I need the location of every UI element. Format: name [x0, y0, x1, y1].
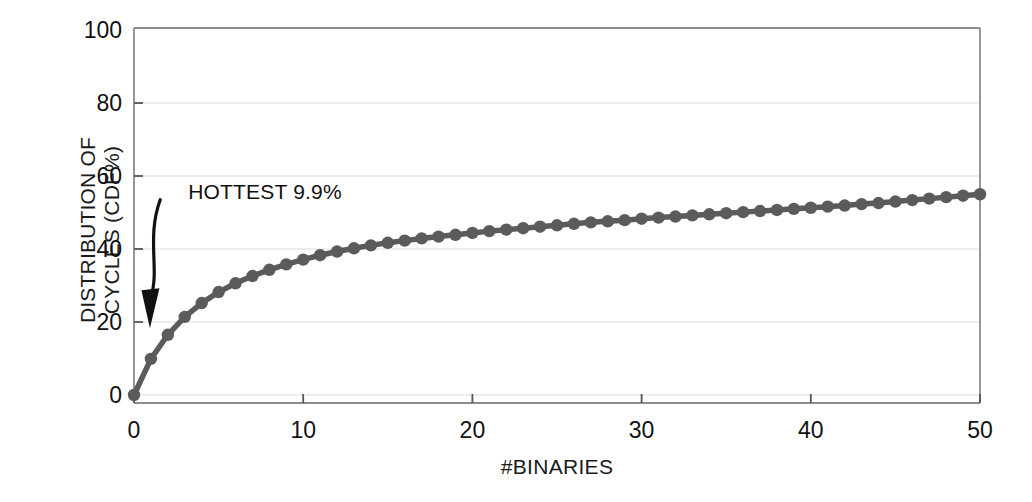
- y-tick-label-20: 20: [96, 309, 122, 336]
- data-point: [466, 227, 478, 239]
- data-point: [551, 219, 563, 231]
- y-tick-label-80: 80: [96, 90, 122, 117]
- data-point: [805, 202, 817, 214]
- x-tick-label-50: 50: [967, 417, 993, 444]
- data-point: [906, 194, 918, 206]
- data-point: [720, 207, 732, 219]
- data-point: [838, 199, 850, 211]
- data-point: [229, 277, 241, 289]
- data-point: [703, 208, 715, 220]
- annotation-arrow-curve: [151, 200, 160, 297]
- data-point: [534, 221, 546, 233]
- data-point: [128, 389, 140, 401]
- x-tick-label-0: 0: [128, 417, 141, 444]
- data-point: [974, 188, 986, 200]
- y-tick-label-40: 40: [96, 236, 122, 263]
- data-point: [297, 253, 309, 265]
- data-point: [957, 190, 969, 202]
- data-point: [449, 229, 461, 241]
- data-point: [754, 205, 766, 217]
- chart-figure: DISTRIBUTION OF CYCLES (CDF%) 0204060801…: [0, 0, 1032, 502]
- data-point: [788, 203, 800, 215]
- y-tick-label-0: 0: [109, 382, 122, 409]
- data-point: [246, 270, 258, 282]
- data-point: [500, 223, 512, 235]
- x-tick-label-20: 20: [460, 417, 486, 444]
- data-point: [872, 197, 884, 209]
- data-point: [618, 214, 630, 226]
- y-tick-label-60: 60: [96, 163, 122, 190]
- data-point: [432, 230, 444, 242]
- data-point: [331, 245, 343, 257]
- data-point: [602, 215, 614, 227]
- data-point: [179, 311, 191, 323]
- data-point: [162, 329, 174, 341]
- chart-annotation-label: HOTTEST 9.9%: [188, 180, 342, 204]
- data-point: [889, 195, 901, 207]
- data-point: [399, 234, 411, 246]
- data-point: [382, 237, 394, 249]
- data-point: [771, 204, 783, 216]
- data-point: [940, 191, 952, 203]
- data-point: [263, 264, 275, 276]
- data-point: [652, 211, 664, 223]
- data-point: [822, 200, 834, 212]
- data-point: [314, 249, 326, 261]
- data-point: [517, 222, 529, 234]
- data-point: [855, 198, 867, 210]
- x-tick-label-30: 30: [629, 417, 655, 444]
- data-point: [415, 232, 427, 244]
- data-point: [635, 213, 647, 225]
- data-point: [923, 192, 935, 204]
- data-point: [280, 258, 292, 270]
- data-point: [669, 210, 681, 222]
- x-axis-label: #BINARIES: [501, 455, 613, 479]
- data-point: [212, 286, 224, 298]
- data-point: [568, 218, 580, 230]
- chart-plot-area: [0, 0, 1032, 502]
- data-point: [483, 225, 495, 237]
- data-point: [737, 206, 749, 218]
- data-point: [585, 216, 597, 228]
- data-point: [686, 209, 698, 221]
- y-tick-label-100: 100: [84, 17, 122, 44]
- x-tick-label-10: 10: [290, 417, 316, 444]
- data-point: [195, 297, 207, 309]
- data-point: [145, 353, 157, 365]
- data-point: [348, 242, 360, 254]
- x-tick-label-40: 40: [798, 417, 824, 444]
- data-point: [365, 239, 377, 251]
